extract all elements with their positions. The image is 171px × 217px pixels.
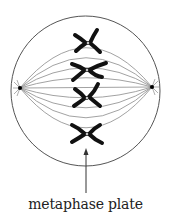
right-pole-centrosome bbox=[150, 85, 154, 89]
left-pole-centrosome bbox=[18, 86, 22, 90]
centromeres bbox=[86, 42, 90, 136]
metaphase-diagram: metaphase plate bbox=[0, 0, 171, 217]
chromosomes bbox=[72, 30, 106, 143]
chromosome-1 bbox=[75, 30, 100, 52]
spindle-fibers bbox=[20, 48, 152, 128]
arrow-icon bbox=[84, 148, 89, 193]
metaphase-plate-label: metaphase plate bbox=[0, 196, 171, 212]
